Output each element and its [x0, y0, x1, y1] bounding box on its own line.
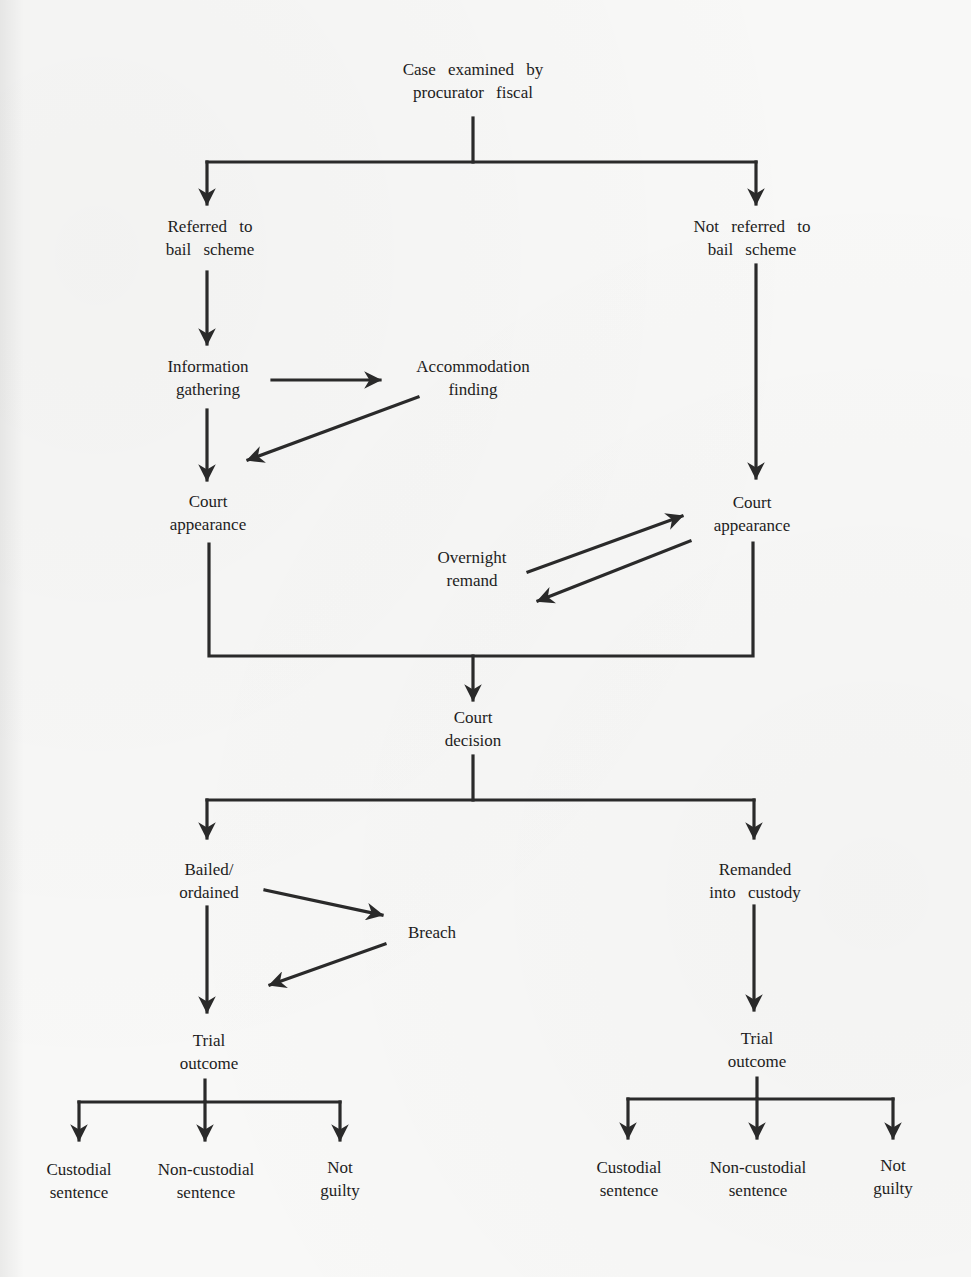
node-noncustodial-sentence-left: Non-custodial sentence [158, 1158, 254, 1204]
node-not-referred-to-bail-scheme: Not referred to bail scheme [693, 215, 810, 261]
node-label: sentence [596, 1179, 661, 1202]
node-accommodation-finding: Accommodation finding [416, 355, 529, 401]
node-label: Custodial [596, 1156, 661, 1179]
node-label: Not [873, 1154, 913, 1177]
edge-left-outcome-bar [79, 1080, 340, 1102]
node-breach: Breach [408, 921, 456, 944]
edge-right-outcome-bar [628, 1078, 893, 1099]
node-label: Non-custodial [710, 1156, 806, 1179]
node-label: Non-custodial [158, 1158, 254, 1181]
node-trial-outcome-left: Trial outcome [180, 1029, 239, 1075]
node-label: remand [438, 569, 507, 592]
node-referred-to-bail-scheme: Referred to bail scheme [166, 215, 255, 261]
node-case-examined: Case examined by procurator fiscal [403, 58, 544, 104]
node-label: Court [170, 490, 246, 513]
node-information-gathering: Information gathering [167, 355, 248, 401]
node-label: outcome [728, 1050, 787, 1073]
node-court-appearance-right: Court appearance [714, 491, 790, 537]
node-custodial-sentence-right: Custodial sentence [596, 1156, 661, 1202]
node-overnight-remand: Overnight remand [438, 546, 507, 592]
node-label: Court [714, 491, 790, 514]
edge-court-to-remand [538, 541, 690, 601]
node-court-appearance-left: Court appearance [170, 490, 246, 536]
node-label: sentence [158, 1181, 254, 1204]
node-label: Remanded [709, 858, 801, 881]
node-remanded-into-custody: Remanded into custody [709, 858, 801, 904]
node-label: ordained [179, 881, 238, 904]
node-noncustodial-sentence-right: Non-custodial sentence [710, 1156, 806, 1202]
node-not-guilty-right: Not guilty [873, 1154, 913, 1200]
edge-accommodation-to-court [248, 397, 418, 460]
node-label: Accommodation [416, 355, 529, 378]
node-not-guilty-left: Not guilty [320, 1156, 360, 1202]
node-label: Breach [408, 921, 456, 944]
node-label: procurator fiscal [403, 81, 544, 104]
node-label: guilty [320, 1179, 360, 1202]
node-court-decision: Court decision [445, 706, 502, 752]
node-label: Custodial [46, 1158, 111, 1181]
node-label: gathering [167, 378, 248, 401]
node-label: Information [167, 355, 248, 378]
node-label: outcome [180, 1052, 239, 1075]
node-trial-outcome-right: Trial outcome [728, 1027, 787, 1073]
node-bailed-ordained: Bailed/ ordained [179, 858, 238, 904]
node-label: Court [445, 706, 502, 729]
node-label: finding [416, 378, 529, 401]
node-label: Not referred to [693, 215, 810, 238]
node-custodial-sentence-left: Custodial sentence [46, 1158, 111, 1204]
node-label: sentence [710, 1179, 806, 1202]
node-label: into custody [709, 881, 801, 904]
node-label: appearance [170, 513, 246, 536]
edge-remand-to-court [528, 516, 682, 572]
node-label: Trial [180, 1029, 239, 1052]
node-label: Bailed/ [179, 858, 238, 881]
node-label: appearance [714, 514, 790, 537]
node-label: sentence [46, 1181, 111, 1204]
node-label: Trial [728, 1027, 787, 1050]
node-label: Case examined by [403, 58, 544, 81]
edge-breach-to-trial [270, 944, 385, 985]
node-label: Overnight [438, 546, 507, 569]
edge-bailed-to-breach [265, 890, 382, 915]
node-label: Referred to [166, 215, 255, 238]
node-label: guilty [873, 1177, 913, 1200]
node-label: decision [445, 729, 502, 752]
flowchart-connectors [0, 0, 971, 1277]
node-label: bail scheme [693, 238, 810, 261]
node-label: bail scheme [166, 238, 255, 261]
node-label: Not [320, 1156, 360, 1179]
